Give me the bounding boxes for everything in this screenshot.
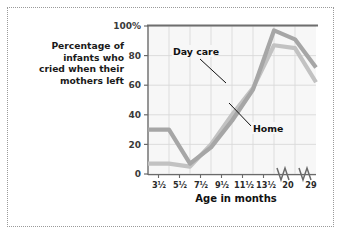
y-tick-label-80: 80 xyxy=(128,51,141,61)
y-tick-label-60: 60 xyxy=(128,80,141,90)
x-tick-label-3: 9½ xyxy=(215,180,230,190)
x-tick-label-7: 29 xyxy=(305,180,317,190)
series-label-home: Home xyxy=(253,123,283,134)
y-tick-label-40: 40 xyxy=(128,110,141,120)
x-tick-label-0: 3½ xyxy=(152,180,167,190)
series-label-day-care: Day care xyxy=(173,46,219,57)
x-tick-label-5: 13½ xyxy=(256,180,276,190)
x-axis-title: Age in months xyxy=(195,193,276,204)
line-chart: 0 20 40 60 80 100% 3½ 5½ 7½ 9½ 11½ 13½ xyxy=(0,0,343,236)
y-tick-label-100: 100% xyxy=(113,21,141,31)
x-tick-label-6: 20 xyxy=(282,180,294,190)
x-tick-label-2: 7½ xyxy=(194,180,209,190)
x-tick-label-4: 11½ xyxy=(234,180,254,190)
chart-figure: Percentage of infants who cried when the… xyxy=(0,0,343,236)
y-tick-label-20: 20 xyxy=(128,140,141,150)
y-tick-label-0: 0 xyxy=(135,169,141,179)
x-tick-label-1: 5½ xyxy=(173,180,188,190)
